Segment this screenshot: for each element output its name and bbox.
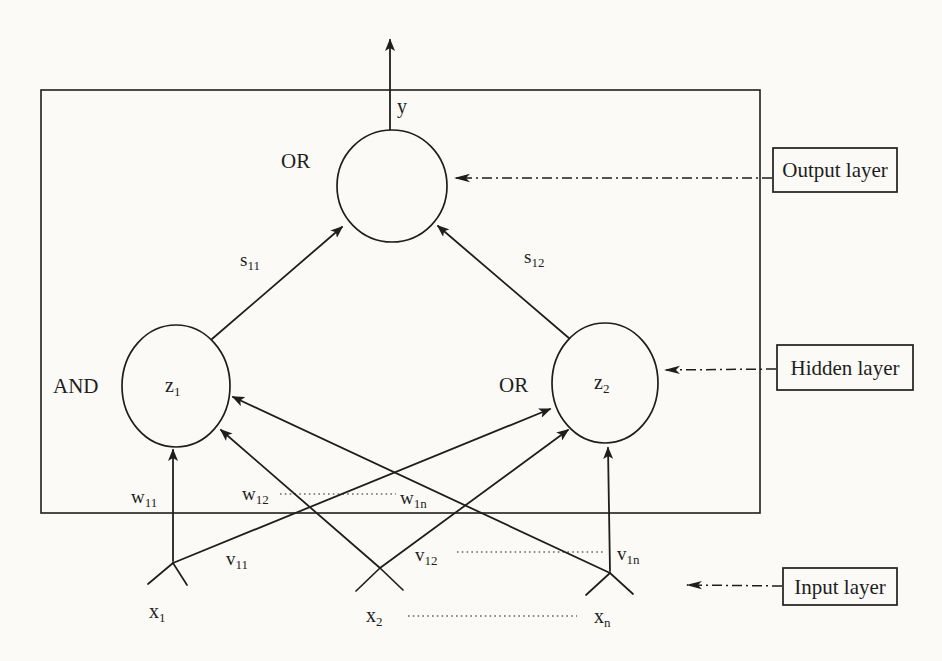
input-x2-leg-right xyxy=(380,568,403,590)
input-xn-label: xn xyxy=(594,605,611,630)
input-x2-leg-left xyxy=(356,568,380,591)
input-xn-leg-left xyxy=(586,573,610,595)
input-x2-label: x2 xyxy=(366,604,383,629)
hidden-z1-gate-label: AND xyxy=(53,374,99,398)
edge-s12-arrow xyxy=(438,226,570,339)
weight-s12-label: s12 xyxy=(524,246,544,270)
neural-network-diagram: OR AND OR y z1 z2 x1 x2 xn s11 s12 w11 w… xyxy=(0,0,942,661)
hidden-layer-callout-label: Hidden layer xyxy=(790,356,899,380)
edge-s11-arrow xyxy=(212,227,342,339)
edge-v1n-arrow xyxy=(608,448,610,571)
input-layer-leader-arrow xyxy=(687,585,782,586)
output-signal-label: y xyxy=(397,95,407,118)
weight-v12-label: v12 xyxy=(415,544,438,568)
weight-v1n-label: v1n xyxy=(617,543,640,567)
input-x1-label: x1 xyxy=(149,600,166,625)
edge-v11-arrow xyxy=(173,409,550,563)
weight-v11-label: v11 xyxy=(226,548,248,572)
output-gate-label: OR xyxy=(281,149,310,173)
input-layer-callout-label: Input layer xyxy=(794,575,886,599)
weight-w12-label: w12 xyxy=(242,483,269,507)
weight-s11-label: s11 xyxy=(240,249,260,273)
input-xn-leg-right xyxy=(610,573,633,594)
input-x1-leg-right xyxy=(173,563,187,585)
figure-canvas: OR AND OR y z1 z2 x1 x2 xn s11 s12 w11 w… xyxy=(0,0,942,661)
weight-w11-label: w11 xyxy=(131,486,157,510)
hidden-z2-gate-label: OR xyxy=(499,373,528,397)
output-layer-callout-label: Output layer xyxy=(782,158,888,182)
input-x1-leg-left xyxy=(148,563,173,584)
weight-w1n-label: w1n xyxy=(400,487,427,511)
output-neuron-circle xyxy=(337,130,447,242)
